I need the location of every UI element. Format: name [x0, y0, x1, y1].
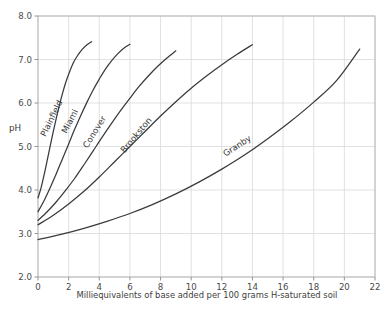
- chart-container: 02468101214161820222.03.04.05.06.07.08.0…: [0, 0, 392, 311]
- x-tick-label: 22: [370, 282, 381, 292]
- x-tick-label: 0: [35, 282, 40, 292]
- x-tick-label: 20: [339, 282, 350, 292]
- y-tick-label: 8.0: [18, 11, 32, 21]
- y-tick-label: 7.0: [18, 55, 32, 65]
- x-tick-label: 2: [66, 282, 71, 292]
- x-axis-title: Milliequivalents of base added per 100 g…: [77, 290, 338, 300]
- y-tick-label: 5.0: [18, 142, 32, 152]
- y-tick-label: 6.0: [18, 98, 32, 108]
- y-axis-title: pH: [9, 123, 21, 133]
- y-tick-label: 3.0: [18, 229, 32, 239]
- chart-background: [0, 0, 392, 311]
- y-tick-label: 2.0: [18, 272, 32, 282]
- y-tick-label: 4.0: [18, 185, 32, 195]
- ph-titration-chart: 02468101214161820222.03.04.05.06.07.08.0…: [0, 0, 392, 311]
